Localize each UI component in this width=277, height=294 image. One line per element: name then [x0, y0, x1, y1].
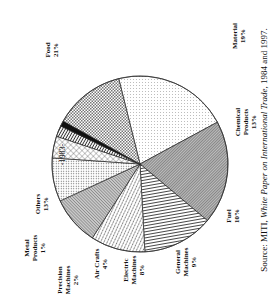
label-food: Food21% [44, 42, 60, 57]
source-note: Source: MITI, White Paper on Internation… [259, 20, 269, 280]
label-others: Others13% [34, 194, 50, 215]
label-precision-machines: PrecisionMachines2% [56, 266, 80, 294]
label-chemical-products: ChemicalProducts13% [234, 108, 258, 136]
label-electric-machines: ElectricMachines8% [122, 256, 146, 285]
chart-title: -1983- [58, 144, 67, 165]
label-general-machines: GeneralMachines9% [174, 248, 198, 277]
label-material: Material19% [231, 23, 247, 49]
label-air-crafts: Air Crafts4% [93, 249, 109, 280]
label-fuel: Fuel10% [225, 209, 241, 223]
label-metal-products: MetalProducts1% [23, 235, 47, 262]
